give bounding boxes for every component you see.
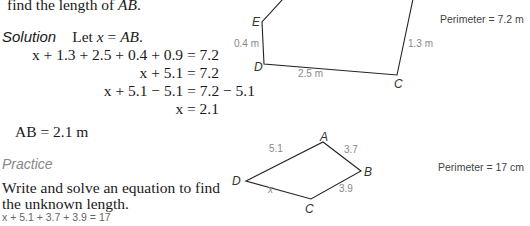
vertex-b-label: B xyxy=(364,165,372,179)
vertex-e-label: E xyxy=(252,15,260,29)
edge-label-dc: 2.5 m xyxy=(298,68,323,79)
vertex-d2-label: D xyxy=(232,174,241,188)
edge-label-dc2: x xyxy=(268,184,273,195)
vertex-c2-label: C xyxy=(305,202,314,216)
perimeter-label-1: Perimeter = 7.2 m xyxy=(440,13,524,25)
pentagon-shape xyxy=(262,0,413,75)
vertex-c-label: C xyxy=(394,77,403,91)
figures-svg xyxy=(0,0,530,226)
vertex-d-label: D xyxy=(254,60,263,74)
perimeter-label-2: Perimeter = 17 cm xyxy=(438,161,524,173)
edge-label-ab: 3.7 xyxy=(344,144,358,155)
edge-label-right: 1.3 m xyxy=(408,38,433,49)
edge-label-ed: 0.4 m xyxy=(234,38,259,49)
edge-label-da: 5.1 xyxy=(269,143,283,154)
edge-label-bc: 3.9 xyxy=(339,183,353,194)
vertex-a-label: A xyxy=(320,130,328,144)
